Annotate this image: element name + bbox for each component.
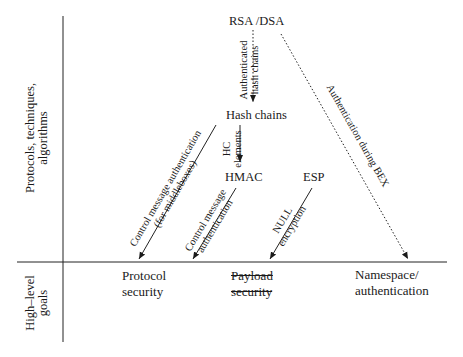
goal-payload-security: Payload security	[231, 268, 273, 300]
edge-label-line: Authenticated	[238, 35, 249, 105]
goal-namespace-authentication: Namespace/ authentication	[355, 267, 429, 299]
goal-line: Payload	[231, 268, 273, 284]
goal-line: Protocol	[122, 268, 166, 284]
axis-label-protocols: Protocols, techniques, algorithms	[24, 73, 50, 203]
goal-line: authentication	[355, 283, 429, 299]
edge-label-line: HC	[221, 129, 232, 169]
node-hash-chains: Hash chains	[226, 108, 287, 123]
edge-label-line: elements	[232, 129, 243, 169]
goal-protocol-security: Protocol security	[122, 268, 166, 300]
goal-line: Namespace/	[355, 267, 429, 283]
edge-label-line: hash chains	[249, 35, 260, 105]
axis-label-line: goals	[37, 268, 50, 338]
node-rsa-dsa: RSA /DSA	[229, 14, 284, 29]
node-hmac: HMAC	[225, 170, 263, 185]
goal-line: security	[231, 284, 273, 300]
axis-label-line: algorithms	[37, 73, 50, 203]
axis-label-goals: High–level goals	[24, 268, 50, 338]
edge-label-hc-elements: HC elements	[221, 129, 243, 169]
edge-label-authenticated-hash-chains: Authenticated hash chains	[238, 35, 260, 105]
diagram-canvas: Protocols, techniques, algorithms High–l…	[0, 0, 463, 357]
node-esp: ESP	[303, 170, 325, 185]
goal-line: security	[122, 284, 166, 300]
edge-rsa-to-namespace	[281, 34, 408, 259]
